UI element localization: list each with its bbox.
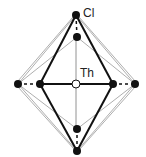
atom-cl-top-inner — [73, 33, 81, 41]
atom-cl-right-outer — [131, 80, 139, 88]
th-label: Th — [80, 66, 94, 80]
atom-cl-left-outer — [14, 80, 22, 88]
atom-cl-top-outer — [72, 11, 80, 19]
atom-th-center — [72, 80, 80, 88]
atom-cl-right-inner — [109, 80, 117, 88]
atom-cl-bottom-outer — [73, 147, 81, 155]
atom-cl-bottom-inner — [73, 125, 81, 133]
octahedron-diagram — [0, 0, 146, 157]
atom-cl-left-inner — [36, 80, 44, 88]
cl-label: Cl — [83, 6, 94, 20]
